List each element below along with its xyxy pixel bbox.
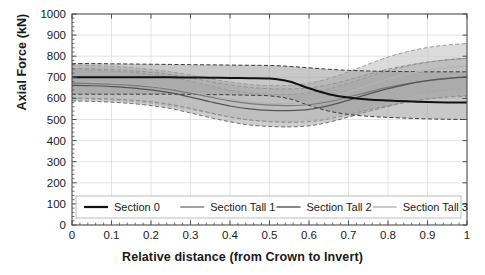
x-tick-label: 0 bbox=[52, 229, 92, 241]
x-axis-tick-labels: 00.10.20.30.40.50.60.70.80.91 bbox=[0, 229, 485, 249]
x-tick-label: 1 bbox=[447, 229, 485, 241]
legend-label-3: Section Tall 3 bbox=[403, 201, 468, 213]
y-tick-label: 500 bbox=[26, 114, 66, 126]
x-tick-label: 0.9 bbox=[408, 229, 448, 241]
x-tick-label: 0.1 bbox=[92, 229, 132, 241]
x-tick-label: 0.5 bbox=[250, 229, 290, 241]
legend-label-0: Section 0 bbox=[114, 201, 160, 213]
chart-figure: Axial Force (kN) Relative distance (from… bbox=[0, 0, 485, 275]
x-tick-label: 0.4 bbox=[210, 229, 250, 241]
x-tick-label: 0.7 bbox=[329, 229, 369, 241]
y-tick-label: 300 bbox=[26, 156, 66, 168]
y-tick-label: 400 bbox=[26, 135, 66, 147]
legend-label-2: Section Tall 2 bbox=[307, 201, 372, 213]
x-tick-label: 0.2 bbox=[131, 229, 171, 241]
x-tick-label: 0.6 bbox=[289, 229, 329, 241]
y-tick-label: 600 bbox=[26, 92, 66, 104]
y-tick-label: 100 bbox=[26, 198, 66, 210]
y-tick-label: 700 bbox=[26, 71, 66, 83]
y-tick-label: 900 bbox=[26, 29, 66, 41]
chart-legend: Section 0Section Tall 1Section Tall 2Sec… bbox=[76, 196, 468, 218]
y-tick-label: 200 bbox=[26, 177, 66, 189]
x-tick-label: 0.8 bbox=[368, 229, 408, 241]
x-tick-label: 0.3 bbox=[171, 229, 211, 241]
y-tick-label: 1000 bbox=[26, 8, 66, 20]
y-tick-label: 800 bbox=[26, 50, 66, 62]
legend-label-1: Section Tall 1 bbox=[210, 201, 275, 213]
x-axis-label: Relative distance (from Crown to Invert) bbox=[0, 250, 485, 264]
